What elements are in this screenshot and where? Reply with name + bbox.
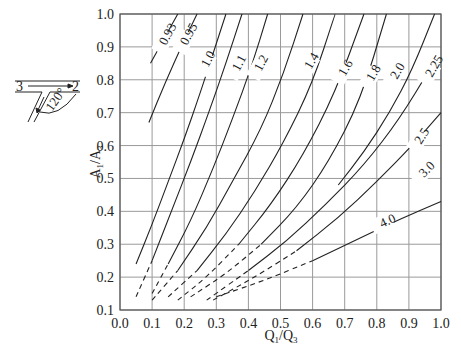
y-tick-label: 1.0 — [97, 7, 115, 22]
x-tick-label: 1.0 — [432, 316, 450, 331]
x-axis-label: Q1/Q3 — [264, 328, 298, 345]
y-tick-label: 0.1 — [97, 303, 115, 318]
x-tick-label: 0.8 — [368, 316, 386, 331]
curve-1.6-dashed — [168, 271, 197, 297]
inset-angle: 120° — [42, 85, 68, 114]
x-tick-label: 0.4 — [240, 316, 258, 331]
y-tick-label: 0.4 — [97, 204, 115, 219]
curve-label: 0.95 — [176, 20, 200, 47]
x-tick-label: 0.6 — [304, 316, 322, 331]
curve-1.4 — [178, 14, 303, 271]
inset-branch-2: 2 — [72, 79, 79, 94]
grid — [120, 14, 441, 310]
curve-2.25 — [338, 14, 434, 185]
curve-2.0-dashed — [191, 244, 262, 297]
curve-1.6 — [197, 14, 335, 271]
x-tick-label: 0.7 — [336, 316, 354, 331]
inset-branch-3: 3 — [16, 79, 23, 94]
x-tick-label: 0.3 — [208, 316, 226, 331]
chart: 0.930.951.01.11.21.41.61.82.02.252.53.04… — [0, 0, 461, 353]
curve-4.0-dashed — [216, 261, 312, 297]
curve-2.5 — [248, 67, 431, 271]
y-tick-label: 0.2 — [97, 270, 115, 285]
x-tick-label: 0.1 — [143, 316, 161, 331]
y-tick-label: 0.7 — [97, 106, 115, 121]
y-tick-label: 0.3 — [97, 237, 115, 252]
curve-2.5-dashed — [207, 271, 249, 301]
curve-labels: 0.930.951.01.11.21.41.61.82.02.252.53.04… — [151, 20, 446, 234]
y-tick-label: 0.8 — [97, 73, 115, 88]
x-tick-label: 0.0 — [111, 316, 129, 331]
x-tick-label: 0.9 — [400, 316, 418, 331]
x-tick-label: 0.2 — [175, 316, 193, 331]
curves — [136, 14, 441, 300]
y-axis-label: A1/A3 — [88, 145, 105, 179]
curve-1.1-dashed — [136, 261, 152, 297]
y-tick-label: 0.9 — [97, 40, 115, 55]
curve-1.8-dashed — [178, 244, 239, 300]
curve-1.2-dashed — [152, 264, 168, 294]
